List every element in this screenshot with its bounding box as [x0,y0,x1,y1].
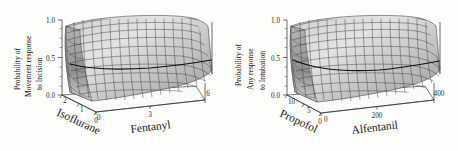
y-tick-1: 2 [63,97,67,105]
z-title-line-2: Movement response [24,35,33,97]
z-tick-2: 0.5 [271,55,280,63]
y-tick-3: 0 [324,116,328,124]
z-title-line-1: Probability of [234,44,243,86]
z-axis-title: Probability of Any response to Intubatio… [234,44,267,90]
x-tick-2: 3 [148,111,152,119]
z-tick-3: 0.0 [46,92,55,100]
x-axis-title: Alfentanil [351,118,399,136]
z-title-line-2: Any response [246,48,255,90]
z-axis-title: Probability of Movement response to Inci… [13,35,44,97]
y-axis-title: Propofol [278,107,320,136]
x-tick-3: 400 [434,90,445,98]
z-title-line-1: Probability of [13,48,22,90]
z-tick-1: 1.0 [271,17,280,25]
z-tick-2: 0.5 [46,55,55,63]
x-axis-title: Fentanyl [130,118,172,136]
response-surface-figure: 1.0 0.5 0.0 Probability of Movement resp… [0,0,458,151]
panel-left-movement-incision: 1.0 0.5 0.0 Probability of Movement resp… [0,0,229,151]
z-title-line-3: to Intubation [258,51,267,90]
panel-right-response-intubation: 1.0 0.5 0.0 Probability of Any response … [229,0,458,151]
z-tick-1: 1.0 [46,17,55,25]
z-title-line-3: to Incision [35,58,44,90]
x-tick-1: 0 [94,117,98,125]
x-tick-3: 6 [206,90,210,98]
panel-left-svg: 1.0 0.5 0.0 Probability of Movement resp… [0,0,229,151]
z-axis: 1.0 0.5 0.0 [46,17,62,100]
z-tick-3: 0.0 [271,92,280,100]
z-axis: 1.0 0.5 0.0 [271,17,287,100]
x-tick-2: 200 [372,112,383,120]
y-tick-2: 1 [80,106,84,114]
y-tick-1: 10 [288,98,296,106]
panel-right-svg: 1.0 0.5 0.0 Probability of Any response … [229,0,458,151]
x-tick-1: 0 [318,118,322,126]
y-tick-2: 5 [307,107,311,115]
